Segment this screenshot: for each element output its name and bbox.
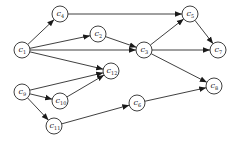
edge-c1-c2 (30, 36, 90, 49)
node-c3: c3 (136, 42, 152, 58)
edge-c2-c3 (106, 37, 137, 48)
edge-c3-c5 (150, 19, 183, 45)
edge-c9-c10 (30, 94, 52, 99)
node-c6: c6 (129, 95, 145, 111)
node-c8: c8 (206, 78, 222, 94)
node-c9: c9 (14, 84, 30, 100)
edge-c9-c11 (27, 98, 48, 120)
node-c11: c11 (46, 118, 62, 134)
edge-c5-c7 (195, 20, 213, 43)
edge-c1-c4 (28, 20, 54, 45)
edge-c6-c8 (145, 88, 206, 102)
node-c12: c12 (103, 63, 119, 79)
edge-c1-c12 (30, 52, 103, 69)
node-c4: c4 (52, 6, 68, 22)
edge-c11-c6 (62, 105, 130, 124)
node-c2: c2 (90, 26, 106, 42)
node-c5: c5 (182, 6, 198, 22)
edge-c10-c12 (67, 75, 104, 97)
edge-c3-c8 (151, 54, 207, 83)
node-layer: c1c2c3c4c5c6c7c8c9c10c11c12 (14, 6, 226, 134)
node-c10: c10 (52, 93, 68, 109)
graph-canvas: c1c2c3c4c5c6c7c8c9c10c11c12 (0, 0, 238, 145)
node-c1: c1 (14, 42, 30, 58)
node-c7: c7 (210, 42, 226, 58)
edge-c9-c12 (30, 73, 103, 90)
